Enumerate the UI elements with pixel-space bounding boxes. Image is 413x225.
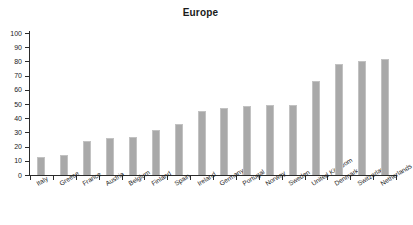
- y-axis-tick-label: 50: [0, 101, 22, 108]
- y-axis-tick: [25, 175, 29, 176]
- y-axis-tick-label: 40: [0, 115, 22, 122]
- y-axis-tick: [25, 90, 29, 91]
- bar: [175, 124, 183, 175]
- x-axis-tick: [259, 176, 260, 180]
- y-axis-tick: [25, 47, 29, 48]
- bar: [243, 106, 251, 175]
- bar: [83, 141, 91, 175]
- bar: [381, 59, 389, 175]
- bar: [266, 105, 274, 175]
- x-axis-tick: [396, 176, 397, 180]
- bar: [220, 108, 228, 175]
- y-axis-tick: [25, 147, 29, 148]
- bar: [312, 81, 320, 175]
- x-axis-tick: [350, 176, 351, 180]
- x-axis-tick: [53, 176, 54, 180]
- y-axis-tick-label: 0: [0, 172, 22, 179]
- x-axis-tick: [213, 176, 214, 180]
- y-axis-tick-label: 10: [0, 157, 22, 164]
- x-axis-tick: [373, 176, 374, 180]
- x-axis-tick: [282, 176, 283, 180]
- bar: [60, 155, 68, 175]
- x-axis-tick: [167, 176, 168, 180]
- y-axis-tick: [25, 161, 29, 162]
- x-axis-tick: [76, 176, 77, 180]
- y-axis-tick: [25, 132, 29, 133]
- y-axis-tick-label: 30: [0, 129, 22, 136]
- bar: [335, 64, 343, 175]
- x-axis-tick: [144, 176, 145, 180]
- y-axis-tick: [25, 76, 29, 77]
- bar: [358, 61, 366, 175]
- bar: [152, 130, 160, 175]
- y-axis-tick-label: 70: [0, 72, 22, 79]
- x-axis-tick: [122, 176, 123, 180]
- bar: [129, 137, 137, 175]
- x-axis-tick: [236, 176, 237, 180]
- bar: [106, 138, 114, 175]
- y-axis-tick-label: 90: [0, 44, 22, 51]
- x-axis-tick: [99, 176, 100, 180]
- x-axis-tick: [305, 176, 306, 180]
- x-axis-tick: [327, 176, 328, 180]
- x-axis-tick: [30, 176, 31, 180]
- y-axis-line: [29, 31, 30, 176]
- bar: [198, 111, 206, 175]
- y-axis-tick-label: 100: [0, 30, 22, 37]
- y-axis-tick: [25, 61, 29, 62]
- x-axis-tick-label: Italy: [35, 175, 49, 188]
- bar: [289, 105, 297, 175]
- y-axis-tick-label: 20: [0, 143, 22, 150]
- bar: [37, 157, 45, 175]
- x-axis-tick: [190, 176, 191, 180]
- y-axis-tick: [25, 104, 29, 105]
- y-axis-tick-label: 80: [0, 58, 22, 65]
- y-axis-tick: [25, 33, 29, 34]
- y-axis-tick-label: 60: [0, 86, 22, 93]
- y-axis-tick: [25, 118, 29, 119]
- chart-title: Europe: [0, 7, 401, 19]
